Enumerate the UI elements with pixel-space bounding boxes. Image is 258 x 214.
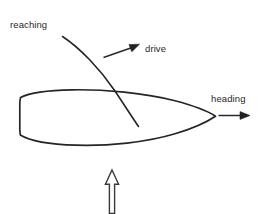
drive-arrow-head xyxy=(129,44,140,52)
label-drive: drive xyxy=(145,43,166,54)
label-reaching: reaching xyxy=(10,19,47,30)
label-heading: heading xyxy=(211,93,246,104)
heading-arrow-head xyxy=(240,112,250,120)
wind-direction-arrow xyxy=(105,170,118,214)
drive-force-arrow xyxy=(104,44,140,57)
sailing-diagram-svg: reaching drive heading xyxy=(0,0,258,214)
sailing-diagram-canvas: reaching drive heading xyxy=(0,0,258,214)
wind-arrow-outline xyxy=(105,170,118,214)
heading-direction-arrow xyxy=(219,112,251,120)
boat-hull xyxy=(20,90,216,146)
hull-outline xyxy=(20,90,216,146)
drive-arrow-shaft xyxy=(104,48,132,58)
